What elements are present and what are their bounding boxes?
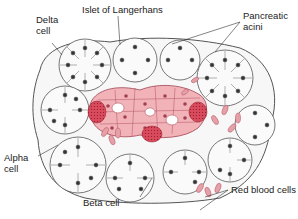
label-islet: Islet of Langerhans [82,4,163,15]
label-red-blood-cells: Red blood cells [231,184,296,195]
label-delta-line2: cell [36,25,58,36]
label-alpha-line1: Alpha [4,152,28,163]
label-pancreatic-acini: Pancreatic acini [243,10,288,32]
label-beta-cell: Beta cell [83,197,119,208]
label-acini-line1: Pancreatic [243,10,288,21]
pancreas-diagram: Delta cell Islet of Langerhans Pancreati… [0,0,298,219]
label-acini-line2: acini [243,21,288,32]
label-alpha-cell: Alpha cell [4,152,28,174]
label-delta-cell: Delta cell [36,14,58,36]
label-delta-line1: Delta [36,14,58,25]
label-alpha-line2: cell [4,163,28,174]
